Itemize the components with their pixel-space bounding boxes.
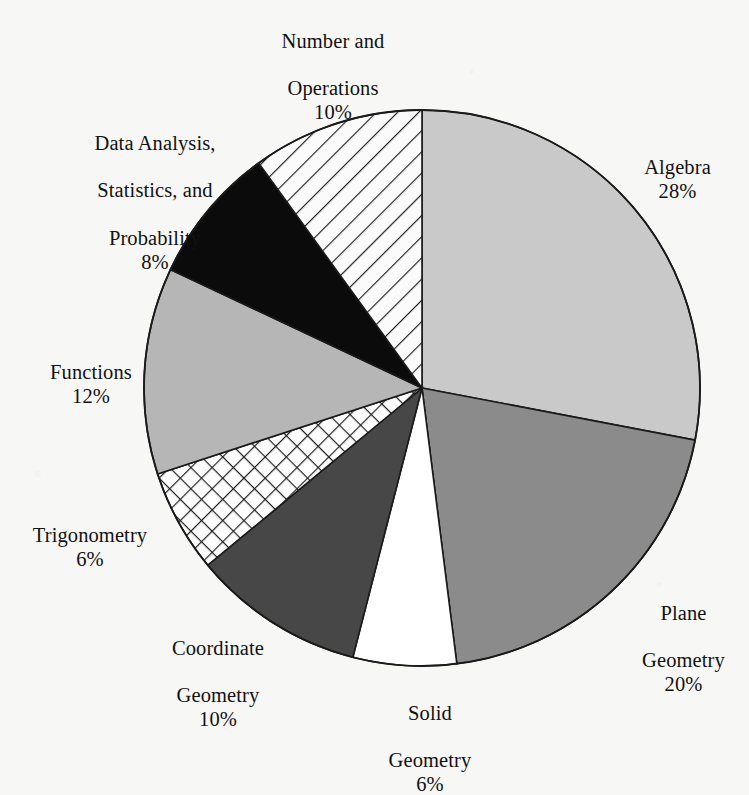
label-percent: 6% [344, 773, 516, 795]
slice-label-algebra: Algebra 28% [606, 132, 749, 227]
slice-label-functions: Functions 12% [8, 337, 174, 432]
label-line-1: Number and [282, 30, 385, 52]
label-percent: 8% [44, 251, 266, 275]
slice-label-data-analysis: Data Analysis, Statistics, and Probabili… [44, 108, 266, 298]
label-line-2: Geometry [177, 684, 260, 706]
label-line-2: Statistics, and [97, 179, 212, 201]
label-percent: 20% [618, 673, 749, 697]
label-percent: 12% [8, 385, 174, 409]
slice-label-plane-geometry: Plane Geometry 20% [618, 578, 749, 721]
label-percent: 6% [0, 548, 180, 572]
label-line-1: Trigonometry [33, 524, 147, 546]
slice-label-coordinate-geometry: Coordinate Geometry 10% [122, 613, 314, 756]
label-line-1: Algebra [644, 156, 711, 178]
slice-label-solid-geometry: Solid Geometry 6% [344, 678, 516, 795]
label-line-2: Geometry [642, 649, 725, 671]
label-line-1: Plane [660, 602, 706, 624]
label-percent: 28% [606, 180, 749, 204]
label-line-3: Probability [109, 227, 201, 249]
label-line-2: Operations [288, 77, 379, 99]
label-line-1: Coordinate [172, 637, 264, 659]
label-line-1: Solid [408, 702, 452, 724]
label-percent: 10% [122, 708, 314, 732]
label-line-1: Functions [50, 361, 132, 383]
slice-label-trigonometry: Trigonometry 6% [0, 500, 180, 595]
label-line-1: Data Analysis, [95, 132, 216, 154]
label-line-2: Geometry [389, 749, 472, 771]
